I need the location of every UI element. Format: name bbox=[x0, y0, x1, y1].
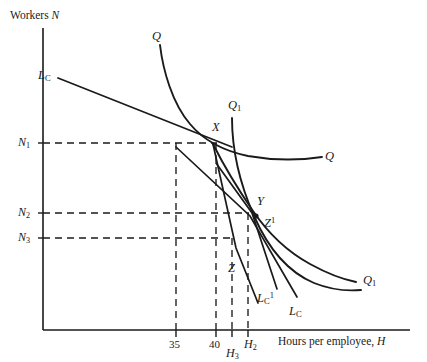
chart-canvas bbox=[0, 0, 427, 362]
y-tick-n1-base: N bbox=[18, 135, 26, 149]
x-tick-40-base: 40 bbox=[209, 338, 220, 350]
x-tick-35-base: 35 bbox=[169, 338, 180, 350]
line-isocost-lc-upper bbox=[58, 78, 232, 147]
x-tick-h3-base: H bbox=[226, 346, 235, 360]
y-tick-n3-base: N bbox=[18, 230, 26, 244]
label-lc-upper-base: L bbox=[38, 68, 45, 82]
label-z1-sup: 1 bbox=[271, 215, 275, 225]
label-lc-upper-sub: C bbox=[45, 73, 51, 83]
label-point-z: Z bbox=[228, 262, 235, 275]
y-tick-n1-sub: 1 bbox=[26, 141, 30, 150]
x-axis-title-text: Hours per employee, bbox=[278, 335, 374, 347]
label-point-y: Y bbox=[257, 195, 264, 208]
y-tick-n3-sub: 3 bbox=[26, 236, 30, 245]
label-isocost-lc-upper: LC bbox=[38, 69, 51, 82]
x-tick-h2-base: H bbox=[244, 337, 253, 351]
label-x-base: X bbox=[212, 120, 220, 134]
label-z-base: Z bbox=[228, 261, 235, 275]
line-isocost-lc-lower bbox=[176, 147, 297, 297]
dashed-guides bbox=[43, 143, 249, 330]
label-lc-lower-sub: C bbox=[296, 309, 302, 319]
x-tick-h3-sub: 3 bbox=[235, 352, 239, 361]
label-isocost-lc-lower: LC bbox=[289, 305, 302, 318]
label-isoquant-q-right: Q bbox=[325, 150, 334, 163]
label-q1-top-sub: 1 bbox=[237, 103, 241, 113]
y-axis-title-text: Workers bbox=[10, 9, 49, 21]
label-lc-lower-base: L bbox=[289, 304, 296, 318]
label-z1-base: Z bbox=[264, 216, 271, 230]
y-tick-n2-sub: 2 bbox=[26, 211, 30, 220]
label-isocost-lc1: LC1 bbox=[257, 291, 274, 305]
y-axis-title: Workers N bbox=[10, 10, 59, 22]
x-tick-label-40: 40 bbox=[209, 339, 220, 350]
y-axis-symbol: N bbox=[52, 9, 60, 21]
x-axis-title: Hours per employee, H bbox=[278, 336, 385, 348]
x-tick-label-35: 35 bbox=[169, 339, 180, 350]
label-point-z1: Z1 bbox=[264, 216, 275, 229]
x-tick-label-h2: H2 bbox=[244, 338, 257, 352]
label-q1-right-sub: 1 bbox=[372, 278, 376, 288]
x-tick-label-h3: H3 bbox=[226, 347, 239, 361]
y-tick-n2-base: N bbox=[18, 205, 26, 219]
label-point-x: X bbox=[212, 121, 220, 134]
y-tick-label-n2: N2 bbox=[18, 206, 30, 220]
curve-isoquant-q1 bbox=[232, 118, 361, 290]
label-lc1-base: L bbox=[257, 291, 264, 305]
label-isoquant-q1-top: Q1 bbox=[228, 99, 241, 112]
x-tick-h2-sub: 2 bbox=[253, 343, 257, 352]
marker-point-z1 bbox=[253, 213, 258, 218]
y-tick-label-n3: N3 bbox=[18, 231, 30, 245]
label-lc1-sup: 1 bbox=[270, 290, 274, 300]
x-axis-symbol: H bbox=[377, 335, 385, 347]
economics-isoquant-figure: Workers N Hours per employee, H N1 N2 N3… bbox=[0, 0, 427, 362]
label-q-top-base: Q bbox=[152, 29, 161, 43]
label-isoquant-q1-right: Q1 bbox=[363, 274, 376, 287]
label-q1-top-base: Q bbox=[228, 98, 237, 112]
label-y-base: Y bbox=[257, 194, 264, 208]
y-tick-label-n1: N1 bbox=[18, 136, 30, 150]
label-q-right-base: Q bbox=[325, 149, 334, 163]
label-isoquant-q-top: Q bbox=[152, 30, 161, 43]
x-axis-ticks bbox=[176, 330, 248, 337]
label-q1-right-base: Q bbox=[363, 273, 372, 287]
